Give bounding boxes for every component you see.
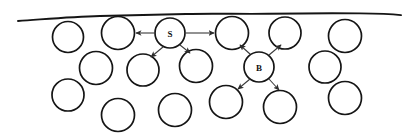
bubble-diagram-canvas: SB bbox=[0, 0, 412, 140]
bubble-b11 bbox=[309, 51, 341, 83]
arrow-b-to-b15 bbox=[238, 79, 250, 89]
bubble-b7 bbox=[80, 52, 113, 85]
bubble-b13 bbox=[102, 99, 135, 132]
bubble-label-s: S bbox=[167, 29, 172, 39]
bubble-b2 bbox=[102, 17, 135, 50]
bubble-b8 bbox=[127, 54, 159, 86]
arrow-b-to-b4 bbox=[240, 45, 250, 54]
bubble-b9 bbox=[180, 50, 213, 83]
arrow-b-to-b16 bbox=[269, 79, 279, 90]
bubble-label-b: B bbox=[256, 63, 262, 73]
bubble-b5 bbox=[269, 17, 301, 49]
bubble-diagram-figure: SB bbox=[0, 0, 412, 140]
bubble-b12 bbox=[52, 79, 84, 111]
arrow-s-to-b9 bbox=[180, 45, 190, 53]
bubble-b4 bbox=[216, 17, 249, 50]
bubble-b16 bbox=[264, 91, 297, 124]
bubble-b15 bbox=[210, 86, 243, 119]
bubble-b17 bbox=[329, 82, 362, 115]
bubbles-layer bbox=[52, 17, 362, 132]
bubble-b6 bbox=[329, 20, 362, 53]
bubble-b1 bbox=[53, 22, 84, 53]
bubble-b14 bbox=[159, 94, 192, 127]
arrow-s-to-b8 bbox=[151, 47, 163, 57]
